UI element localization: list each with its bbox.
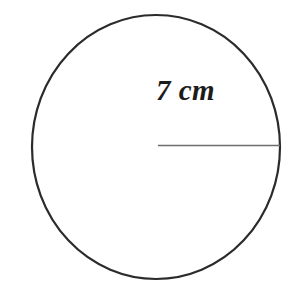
radius-measurement-label: 7 cm xyxy=(156,76,215,105)
circle-diagram-svg xyxy=(0,0,301,301)
geometry-figure-canvas: 7 cm xyxy=(0,0,301,301)
circle-outline xyxy=(32,15,280,279)
